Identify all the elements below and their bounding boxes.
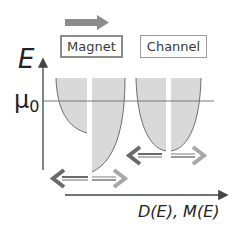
magnet-left-arrow-icon: [53, 170, 88, 187]
magnet-label: Magnet: [60, 35, 123, 58]
channel-left-arrow-icon: [129, 147, 162, 164]
channel-dos-right-icon: [171, 78, 201, 151]
current-arrow-icon: [65, 15, 109, 30]
magnet-right-arrow-icon: [92, 170, 125, 187]
magnet-dos-left-icon: [56, 78, 87, 133]
channel-label: Channel: [140, 35, 207, 58]
diagram-canvas: Magnet Channel E μ0 D(E), M(E): [0, 0, 239, 229]
chemical-potential-label: μ0: [14, 86, 39, 116]
energy-axis-label: E: [18, 44, 34, 74]
mu-subscript: 0: [29, 97, 39, 116]
channel-dos-left-icon: [136, 78, 166, 151]
dos-axis-label: D(E), M(E): [138, 202, 219, 221]
mu-symbol: μ: [14, 86, 29, 114]
magnet-dos-right-icon: [92, 78, 125, 172]
